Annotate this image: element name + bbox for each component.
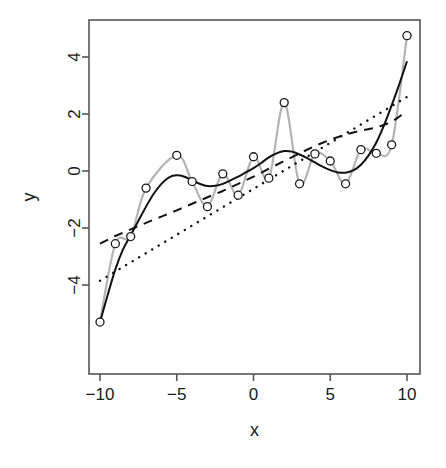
data-point-marker bbox=[142, 184, 150, 192]
data-point-marker bbox=[372, 149, 380, 157]
y-tick-label: 2 bbox=[65, 109, 84, 118]
y-tick-label: 0 bbox=[65, 166, 84, 175]
data-point-marker bbox=[403, 32, 411, 40]
data-point-marker bbox=[311, 150, 319, 158]
y-tick-label: −4 bbox=[65, 275, 84, 294]
data-point-marker bbox=[388, 141, 396, 149]
y-tick-label: −2 bbox=[65, 218, 84, 237]
x-tick-label: −10 bbox=[86, 385, 115, 404]
x-tick-label: 0 bbox=[249, 385, 258, 404]
data-point-marker bbox=[280, 99, 288, 107]
x-tick-label: 10 bbox=[398, 385, 417, 404]
data-point-marker bbox=[265, 174, 273, 182]
data-point-marker bbox=[188, 178, 196, 186]
y-tick-label: 4 bbox=[65, 52, 84, 61]
plot-canvas: −10−50510−4−2024xy bbox=[0, 0, 446, 468]
y-axis-title: y bbox=[19, 193, 39, 202]
data-point-marker bbox=[111, 240, 119, 248]
data-point-marker bbox=[234, 191, 242, 199]
data-point-marker bbox=[127, 233, 135, 241]
x-tick-label: 5 bbox=[326, 385, 335, 404]
data-point-marker bbox=[250, 153, 258, 161]
scatter-plot-figure: −10−50510−4−2024xy bbox=[0, 0, 446, 468]
data-point-marker bbox=[357, 146, 365, 154]
data-point-marker bbox=[342, 180, 350, 188]
data-point-marker bbox=[219, 170, 227, 178]
data-point-marker bbox=[203, 203, 211, 211]
data-point-marker bbox=[173, 151, 181, 159]
x-axis-title: x bbox=[250, 420, 259, 440]
data-point-marker bbox=[296, 180, 304, 188]
data-point-marker bbox=[96, 318, 104, 326]
x-tick-label: −5 bbox=[167, 385, 186, 404]
data-point-marker bbox=[326, 157, 334, 165]
